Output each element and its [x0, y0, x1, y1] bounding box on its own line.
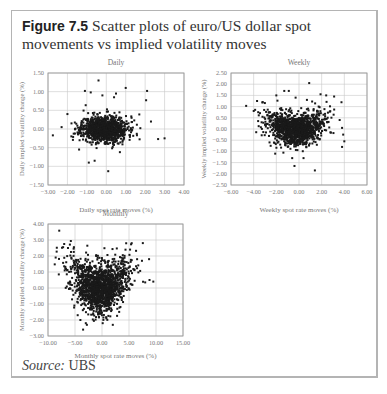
scatter-point [107, 272, 109, 274]
x-tick-label: 0.00 [101, 188, 112, 195]
y-tick-label: −1.00 [212, 147, 227, 154]
scatter-point [75, 259, 77, 261]
scatter-point [276, 100, 278, 102]
scatter-point [78, 282, 80, 284]
scatter-point [125, 267, 127, 269]
scatter-point [296, 113, 298, 115]
scatter-point [96, 147, 98, 149]
scatter-point [272, 134, 274, 136]
scatter-point [286, 126, 288, 128]
scatter-point [333, 114, 335, 116]
scatter-point [111, 116, 113, 118]
scatter-point [82, 296, 84, 298]
scatter-point [130, 270, 132, 272]
scatter-point [122, 132, 124, 134]
scatter-point [100, 265, 102, 267]
scatter-point [85, 104, 87, 106]
source-value: UBS [69, 358, 96, 373]
scatter-point [82, 329, 84, 331]
scatter-point [79, 268, 81, 270]
x-tick-label: −1.00 [80, 188, 95, 195]
scatter-point [136, 267, 138, 269]
scatter-point [123, 136, 125, 138]
scatter-point [121, 120, 123, 122]
y-tick-label: −1.00 [29, 162, 44, 169]
scatter-point [117, 273, 119, 275]
scatter-point [65, 261, 67, 263]
scatter-point [90, 274, 92, 276]
scatter-point [288, 126, 290, 128]
scatter-point [264, 134, 266, 136]
scatter-point [73, 307, 75, 309]
scatter-point [113, 258, 115, 260]
scatter-point [121, 263, 123, 265]
scatter-point [74, 282, 76, 284]
scatter-point [90, 281, 92, 283]
x-tick-label: −4.00 [246, 188, 261, 195]
scatter-point [280, 107, 282, 109]
scatter-point [303, 112, 305, 114]
scatter-point [282, 119, 284, 121]
scatter-point [70, 251, 72, 253]
scatter-point [258, 125, 260, 127]
scatter-point [295, 149, 297, 151]
scatter-point [333, 109, 335, 111]
scatter-point [100, 273, 102, 275]
scatter-point [78, 131, 80, 133]
scatter-point [70, 266, 72, 268]
scatter-point [117, 282, 119, 284]
scatter-point [95, 268, 97, 270]
scatter-point [286, 128, 288, 130]
scatter-point [313, 109, 315, 111]
scatter-point [119, 151, 121, 153]
scatter-point [80, 135, 82, 137]
scatter-point [107, 315, 109, 317]
x-tick-label: 15.00 [176, 339, 190, 346]
chart-title: Daily [108, 58, 125, 67]
scatter-point [74, 286, 76, 288]
scatter-point [157, 138, 159, 140]
scatter-point [114, 129, 116, 131]
y-tick-label: −1.00 [29, 300, 44, 307]
scatter-point [85, 279, 87, 281]
scatter-point [126, 286, 128, 288]
scatter-point [111, 139, 113, 141]
scatter-point [80, 304, 82, 306]
scatter-point [90, 91, 92, 93]
scatter-point [97, 299, 99, 301]
scatter-point [91, 260, 93, 262]
scatter-point [113, 304, 115, 306]
scatter-point [116, 289, 118, 291]
scatter-point [66, 113, 68, 115]
scatter-point [113, 260, 115, 262]
scatter-point [290, 143, 292, 145]
scatter-point [123, 295, 125, 297]
scatter-point [124, 288, 126, 290]
scatter-point [107, 118, 109, 120]
scatter-point [281, 129, 283, 131]
scatter-point [93, 282, 95, 284]
scatter-point [306, 116, 308, 118]
scatter-point [301, 132, 303, 134]
scatter-point [99, 270, 101, 272]
scatter-point [100, 260, 102, 262]
scatter-point [291, 132, 293, 134]
scatter-point [326, 101, 328, 103]
scatter-point [325, 94, 327, 96]
scatter-point [133, 269, 135, 271]
scatter-point [97, 295, 99, 297]
scatter-point [330, 132, 332, 134]
scatter-point [317, 134, 319, 136]
scatter-point [138, 113, 140, 115]
scatter-point [144, 281, 146, 283]
scatter-point [102, 288, 104, 290]
scatter-point [285, 108, 287, 110]
scatter-point [318, 125, 320, 127]
scatter-point [295, 142, 297, 144]
y-tick-label: −2.50 [212, 181, 227, 188]
scatter-point [76, 301, 78, 303]
scatter-point [314, 133, 316, 135]
scatter-point [79, 128, 81, 130]
scatter-point [95, 124, 97, 126]
scatter-point [81, 286, 83, 288]
